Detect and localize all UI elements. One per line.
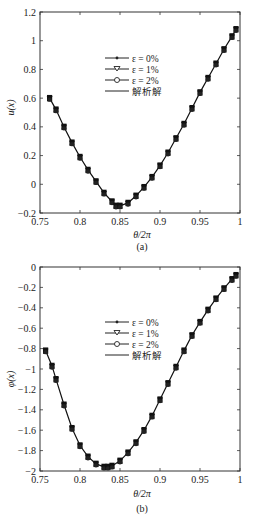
y-tick-label: −1.8 xyxy=(18,445,36,456)
x-tick-label: 0.9 xyxy=(154,474,167,485)
legend-label: 解析解 xyxy=(132,86,162,97)
y-tick-label: 0.4 xyxy=(24,121,37,132)
legend-item: 解析解 xyxy=(105,350,162,361)
legend-label: ε = 2% xyxy=(132,76,159,86)
y-tick-label: −0.2 xyxy=(18,208,36,219)
x-tick-label: 0.85 xyxy=(111,216,129,227)
y-tick-label: 0.8 xyxy=(24,64,37,75)
y-tick-label: −1 xyxy=(25,364,36,375)
plot-frame xyxy=(40,267,240,471)
y-tick-label: −1.6 xyxy=(18,425,36,436)
y-tick-label: −0.6 xyxy=(18,323,36,334)
y-tick-label: −0.4 xyxy=(18,302,36,313)
y-tick-label: −1.4 xyxy=(18,404,36,415)
y-tick-label: 0.2 xyxy=(24,150,37,161)
x-tick-label: 0.95 xyxy=(191,216,209,227)
x-tick-label: 1 xyxy=(238,216,243,227)
legend-item: ε = 2% xyxy=(105,76,159,86)
analytic-curve xyxy=(46,275,236,467)
y-tick-label: 0 xyxy=(31,179,36,190)
legend-label: 解析解 xyxy=(132,350,162,361)
y-tick-label: −1.2 xyxy=(18,384,36,395)
x-tick-label: 1 xyxy=(238,474,243,485)
x-tick-label: 0.8 xyxy=(74,216,87,227)
legend-label: ε = 1% xyxy=(132,65,159,75)
y-tick-label: 1 xyxy=(31,35,36,46)
x-tick-label: 0.95 xyxy=(191,474,209,485)
panel-caption: (b) xyxy=(136,503,148,515)
chart-panel-a: 0.750.80.850.90.951−0.200.20.40.60.811.2… xyxy=(5,7,243,254)
y-tick-label: 0.6 xyxy=(24,93,37,104)
x-axis-label: θ/2π xyxy=(133,229,152,240)
legend-label: ε = 0% xyxy=(132,318,159,328)
x-axis-label: θ/2π xyxy=(133,488,152,499)
legend-item: ε = 0% xyxy=(105,318,159,328)
x-tick-label: 0.85 xyxy=(111,474,129,485)
legend-item: ε = 1% xyxy=(105,329,159,339)
y-tick-label: −0.8 xyxy=(18,343,36,354)
legend-label: ε = 0% xyxy=(132,54,159,64)
x-tick-label: 0.8 xyxy=(74,474,87,485)
plot-frame xyxy=(40,12,240,213)
x-tick-label: 0.9 xyxy=(154,216,167,227)
panel-caption: (a) xyxy=(136,241,147,253)
figure: 0.750.80.850.90.951−0.200.20.40.60.811.2… xyxy=(0,0,270,519)
legend-item: 解析解 xyxy=(105,86,162,97)
y-tick-label: −0.2 xyxy=(18,282,36,293)
legend-item: ε = 0% xyxy=(105,54,159,64)
chart-panel-b: 0.750.80.850.90.951−2−1.8−1.6−1.4−1.2−1−… xyxy=(5,262,243,516)
y-tick-label: 0 xyxy=(31,262,36,273)
y-axis-label: u(x) xyxy=(5,99,17,116)
legend-item: ε = 1% xyxy=(105,65,159,75)
legend-item: ε = 2% xyxy=(105,340,159,350)
legend-label: ε = 1% xyxy=(132,329,159,339)
y-axis-label: φ(x) xyxy=(5,370,17,387)
y-tick-label: 1.2 xyxy=(24,7,37,18)
legend-label: ε = 2% xyxy=(132,340,159,350)
y-tick-label: −2 xyxy=(25,466,36,477)
